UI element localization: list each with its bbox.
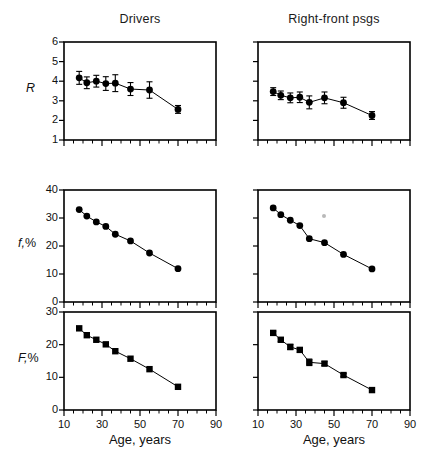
y-tick-label: 5 <box>26 55 58 67</box>
data-point-marker <box>277 211 284 218</box>
plot-frame <box>258 312 410 410</box>
data-point-marker <box>76 325 82 331</box>
plot-surface <box>0 0 430 456</box>
data-point-marker <box>146 366 152 372</box>
data-point-marker <box>83 213 90 220</box>
data-point-marker <box>103 341 109 347</box>
panel-row3-col1 <box>59 312 216 416</box>
x-tick-label: 50 <box>318 418 350 430</box>
data-point-marker <box>175 106 182 113</box>
y-tick-label: 0 <box>26 403 58 415</box>
data-point-marker <box>127 86 134 93</box>
data-point-marker <box>127 356 133 362</box>
data-point-marker <box>102 223 109 230</box>
data-point-marker <box>112 231 119 238</box>
data-point-marker <box>93 219 100 226</box>
y-tick-label: 30 <box>26 305 58 317</box>
data-point-marker <box>76 74 83 81</box>
data-point-marker <box>321 239 328 246</box>
data-point-marker <box>112 80 119 87</box>
y-tick-label: 20 <box>26 239 58 251</box>
figure-panel-grid: Drivers Right-front psgs R f,% F,% Age, … <box>0 0 430 456</box>
data-point-marker <box>112 348 118 354</box>
data-point-marker <box>340 99 347 106</box>
data-point-marker <box>93 337 99 343</box>
data-point-marker <box>270 330 276 336</box>
x-tick-label: 30 <box>86 418 118 430</box>
data-point-marker <box>287 344 293 350</box>
data-point-marker <box>306 359 312 365</box>
x-tick-label: 70 <box>162 418 194 430</box>
y-tick-label: 10 <box>26 267 58 279</box>
data-point-marker <box>369 387 375 393</box>
x-tick-label: 70 <box>356 418 388 430</box>
data-point-marker <box>296 94 303 101</box>
data-point-marker <box>270 88 277 95</box>
data-point-marker <box>127 238 134 245</box>
plot-frame <box>64 42 216 140</box>
data-point-marker <box>369 266 376 273</box>
data-point-marker <box>297 347 303 353</box>
data-point-marker <box>306 99 313 106</box>
data-point-marker <box>93 78 100 85</box>
data-point-marker <box>146 250 153 257</box>
data-point-marker <box>287 94 294 101</box>
scan-artifact-speck <box>322 214 326 218</box>
plot-frame <box>258 190 410 302</box>
y-tick-label: 1 <box>26 133 58 145</box>
panel-row1-col1 <box>59 42 216 146</box>
data-point-marker <box>102 80 109 87</box>
data-point-marker <box>296 222 303 229</box>
x-tick-label: 10 <box>48 418 80 430</box>
data-point-marker <box>175 384 181 390</box>
plot-frame <box>64 312 216 410</box>
y-tick-label: 10 <box>26 370 58 382</box>
panel-row1-col2 <box>253 42 410 146</box>
data-point-marker <box>340 372 346 378</box>
data-point-marker <box>146 87 153 94</box>
data-point-marker <box>369 112 376 119</box>
y-tick-label: 20 <box>26 338 58 350</box>
data-point-marker <box>321 94 328 101</box>
y-tick-label: 2 <box>26 113 58 125</box>
data-point-marker <box>278 337 284 343</box>
data-point-marker <box>340 251 347 258</box>
panel-row2-col2 <box>253 190 410 308</box>
x-tick-label: 90 <box>200 418 232 430</box>
data-point-marker <box>306 235 313 242</box>
data-point-marker <box>287 217 294 224</box>
data-point-marker <box>321 360 327 366</box>
plot-frame <box>64 190 216 302</box>
y-tick-label: 3 <box>26 94 58 106</box>
data-point-marker <box>175 265 182 272</box>
data-point-marker <box>84 332 90 338</box>
panel-row3-col2 <box>253 312 410 416</box>
x-tick-label: 50 <box>124 418 156 430</box>
x-tick-label: 30 <box>280 418 312 430</box>
y-tick-label: 40 <box>26 183 58 195</box>
y-tick-label: 4 <box>26 74 58 86</box>
data-point-marker <box>76 206 83 213</box>
data-point-marker <box>83 79 90 86</box>
y-tick-label: 6 <box>26 35 58 47</box>
panel-row2-col1 <box>59 190 216 308</box>
data-point-marker <box>270 205 277 212</box>
data-point-marker <box>277 92 284 99</box>
x-tick-label: 90 <box>394 418 426 430</box>
y-tick-label: 30 <box>26 211 58 223</box>
x-tick-label: 10 <box>242 418 274 430</box>
